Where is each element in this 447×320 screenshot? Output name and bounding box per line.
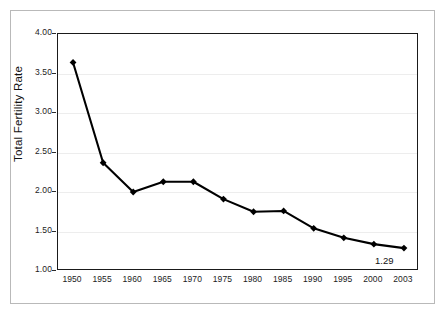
- y-axis-tick-mark: [52, 33, 56, 34]
- y-axis-tick-label: 1.50: [35, 225, 52, 235]
- data-point-marker: [401, 245, 408, 252]
- data-point-marker: [370, 241, 377, 248]
- y-axis-tick-mark: [52, 152, 56, 153]
- x-axis-tick-label: 1950: [62, 274, 81, 284]
- y-axis-tick-mark: [52, 231, 56, 232]
- y-axis-tick-label: 2.00: [35, 185, 52, 195]
- plot-area: [57, 33, 418, 270]
- y-axis-tick-mark: [52, 73, 56, 74]
- line-series-markers: [70, 59, 408, 251]
- x-axis-tick-label: 1985: [273, 274, 292, 284]
- x-axis-tick-label: 1970: [183, 274, 202, 284]
- x-axis-tick-label: 1995: [333, 274, 352, 284]
- y-axis-tick-mark: [52, 191, 56, 192]
- x-axis-tick-label: 1955: [92, 274, 111, 284]
- line-series-path: [73, 62, 404, 248]
- y-axis-tick-mark: [52, 112, 56, 113]
- x-axis-tick-label: 1980: [243, 274, 262, 284]
- data-point-marker: [70, 59, 77, 66]
- chart-figure: Total Fertility Rate 4.003.503.002.502.0…: [0, 0, 447, 320]
- x-axis-tick-label: 2003: [393, 274, 412, 284]
- y-axis-tick-label: 4.00: [35, 27, 52, 37]
- x-axis-tick-label: 1960: [123, 274, 142, 284]
- y-axis-tick-labels: 4.003.503.002.502.001.501.00: [22, 33, 52, 270]
- y-axis-tick-label: 3.00: [35, 106, 52, 116]
- x-axis-tick-label: 1975: [213, 274, 232, 284]
- data-point-marker: [250, 208, 257, 215]
- y-axis-tick-mark: [52, 270, 56, 271]
- y-axis-tick-label: 1.00: [35, 264, 52, 274]
- x-axis-tick-label: 1990: [303, 274, 322, 284]
- y-axis-tick-label: 2.50: [35, 146, 52, 156]
- x-axis-tick-labels: 1950195519601965197019751980198519901995…: [57, 274, 418, 290]
- data-point-annotation: 1.29: [375, 255, 394, 266]
- data-point-marker: [160, 178, 167, 185]
- line-series-svg: [58, 34, 419, 271]
- x-axis-tick-label: 1965: [153, 274, 172, 284]
- x-axis-tick-label: 2000: [363, 274, 382, 284]
- data-point-marker: [340, 234, 347, 241]
- y-axis-tick-label: 3.50: [35, 67, 52, 77]
